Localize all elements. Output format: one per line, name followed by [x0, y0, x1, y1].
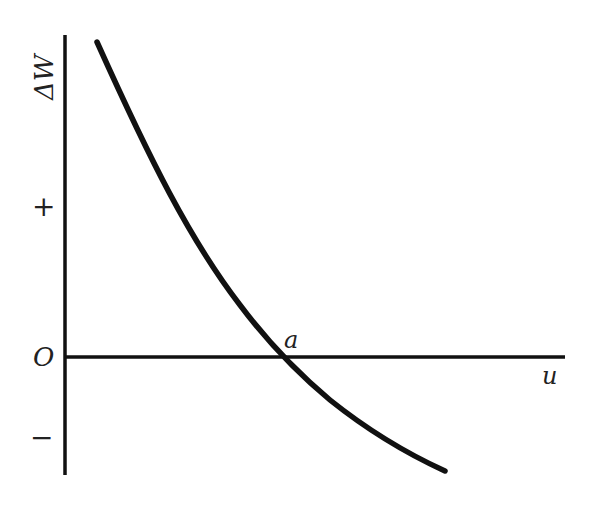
origin-label: O [33, 342, 54, 372]
intersection-label: a [284, 326, 298, 354]
plus-label: + [32, 190, 55, 223]
delta-w-curve [97, 42, 445, 471]
y-axis-label: ΔW [29, 52, 59, 101]
x-axis-label: u [542, 362, 557, 390]
diagram-canvas: ΔW + O − a u [0, 0, 590, 508]
minus-label: − [30, 421, 53, 454]
